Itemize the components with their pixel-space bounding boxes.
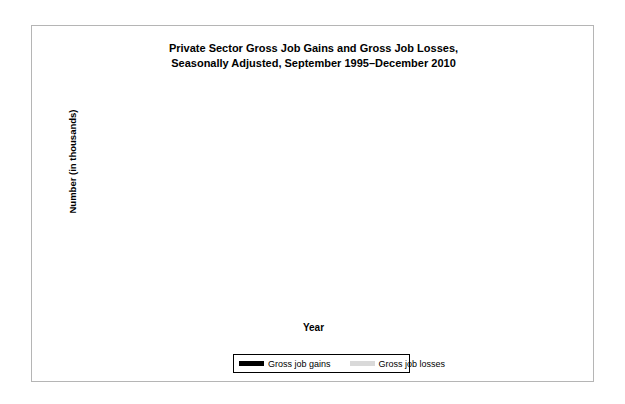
legend-label-gains: Gross job gains [268,359,331,369]
plot-area [32,26,595,383]
legend-swatch-gains [239,361,264,366]
legend-label-losses: Gross job losses [379,359,446,369]
chart-page: Private Sector Gross Job Gains and Gross… [0,0,625,404]
chart-legend: Gross job gains Gross job losses [233,354,410,373]
chart-outer-frame: Private Sector Gross Job Gains and Gross… [31,25,594,382]
legend-item-losses: Gross job losses [345,359,446,369]
legend-item-gains: Gross job gains [234,359,331,369]
legend-swatch-losses [350,361,375,366]
chart-svg [32,26,595,346]
